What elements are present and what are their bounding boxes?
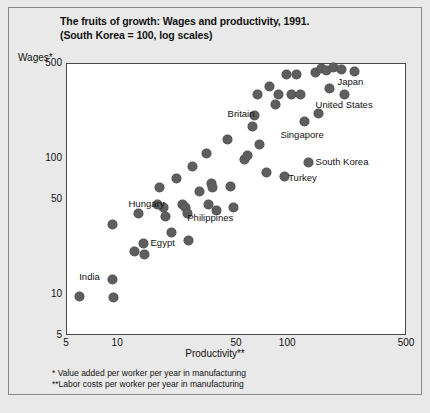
data-point — [265, 82, 274, 91]
y-tick-label: 100 — [28, 152, 62, 163]
data-point — [195, 187, 204, 196]
data-point — [325, 84, 334, 93]
data-point — [300, 117, 309, 126]
data-point — [292, 70, 301, 79]
x-tick-label: 5 — [46, 337, 86, 348]
plot-area: IndiaEgyptHungaryPhilippinesTurkeySouth … — [66, 63, 406, 335]
data-point — [262, 168, 271, 177]
data-point — [255, 140, 264, 149]
data-point — [253, 90, 262, 99]
data-point — [202, 149, 211, 158]
data-point — [229, 203, 238, 212]
data-point — [139, 239, 148, 248]
data-point — [108, 220, 117, 229]
data-point — [108, 275, 117, 284]
point-label-egypt: Egypt — [151, 237, 175, 248]
x-tick-label: 50 — [216, 337, 256, 348]
data-point — [130, 247, 139, 256]
data-point — [337, 65, 346, 74]
point-label-south-korea: South Korea — [316, 156, 369, 167]
data-point — [271, 100, 280, 109]
data-point — [184, 236, 193, 245]
x-tick-label: 10 — [97, 337, 137, 348]
point-label-philippines: Philippines — [187, 212, 233, 223]
data-point — [314, 109, 323, 118]
data-point — [161, 212, 170, 221]
y-tick-label: 500 — [28, 57, 62, 68]
y-tick-label: 10 — [28, 288, 62, 299]
point-label-turkey: Turkey — [288, 172, 317, 183]
chart-title-block: The fruits of growth: Wages and producti… — [60, 14, 400, 42]
plot-points-layer: IndiaEgyptHungaryPhilippinesTurkeySouth … — [67, 64, 405, 334]
data-point — [350, 67, 359, 76]
chart-figure: The fruits of growth: Wages and producti… — [0, 0, 430, 413]
data-point — [167, 228, 176, 237]
data-point — [188, 162, 197, 171]
data-point — [155, 183, 164, 192]
data-point — [172, 174, 181, 183]
x-tick-label: 100 — [267, 337, 307, 348]
chart-subtitle: (South Korea = 100, log scales) — [60, 28, 400, 42]
data-point — [287, 90, 296, 99]
point-label-singapore: Singapore — [280, 129, 323, 140]
data-point — [296, 90, 305, 99]
point-label-britain: Britain — [228, 108, 255, 119]
footnote-2: **Labor costs per worker per year in man… — [52, 379, 244, 389]
chart-title: The fruits of growth: Wages and producti… — [60, 14, 400, 28]
x-axis-label: Productivity** — [0, 348, 430, 359]
data-point — [75, 292, 84, 301]
point-label-hungary: Hungary — [128, 198, 164, 209]
data-point — [140, 250, 149, 259]
x-tick-label: 500 — [386, 337, 426, 348]
point-label-united-states: United States — [316, 99, 373, 110]
footnote-1: * Value added per worker per year in man… — [52, 368, 246, 378]
data-point — [134, 209, 143, 218]
data-point — [243, 151, 252, 160]
data-point — [109, 293, 118, 302]
data-point — [282, 70, 291, 79]
data-point — [248, 122, 257, 131]
point-label-india: India — [79, 271, 100, 282]
data-point — [226, 182, 235, 191]
data-point — [304, 158, 313, 167]
y-axis-ticks: 50010050105 — [26, 63, 62, 335]
y-tick-label: 50 — [28, 193, 62, 204]
data-point — [208, 183, 217, 192]
point-label-japan: Japan — [337, 76, 363, 87]
data-point — [223, 135, 232, 144]
data-point — [340, 90, 349, 99]
data-point — [274, 90, 283, 99]
